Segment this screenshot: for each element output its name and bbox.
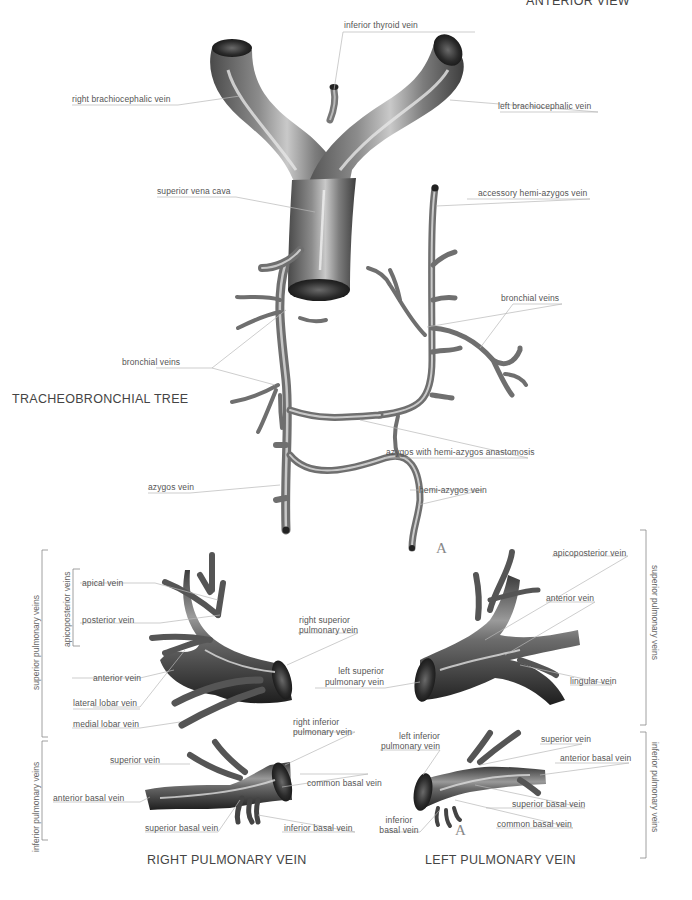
label-left-inferior-basal-vein-l1: inferior [378, 815, 420, 825]
label-apicoposterior-vein: apicoposterior vein [553, 548, 626, 558]
left-superior-pulmonary-vein-illustration [411, 552, 580, 705]
label-right-superior-pulmonary-vein-l2: pulmonary vein [299, 625, 358, 635]
label-left-superior-vein: superior vein [541, 734, 591, 744]
label-right-superior-pulmonary-vein-l1: right superior [299, 615, 350, 625]
section-title-tracheobronchial-tree: TRACHEOBRONCHIAL TREE [12, 392, 188, 406]
label-apical-vein: apical vein [82, 578, 123, 588]
bracket-label-right-superior-pulmonary-veins: superior pulmonary veins [31, 595, 41, 690]
bracket-label-left-superior-pulmonary-veins: superior pulmonary veins [650, 565, 660, 660]
label-right-inferior-pulmonary-vein-l1: right inferior [293, 717, 339, 727]
section-title-left-pulmonary-vein: LEFT PULMONARY VEIN [425, 853, 576, 867]
label-posterior-vein: posterior vein [82, 615, 134, 625]
marker-a-upper: A [436, 540, 447, 557]
bracket-label-right-inferior-pulmonary-veins: inferior pulmonary veins [31, 762, 41, 852]
label-azygos-anastomosis: azygos with hemi-azygos anastomosis [386, 447, 535, 457]
label-right-superior-vein: superior vein [110, 755, 160, 765]
right-superior-pulmonary-vein-illustration [152, 555, 296, 725]
right-inferior-pulmonary-vein-illustration [145, 742, 296, 822]
section-title-right-pulmonary-vein: RIGHT PULMONARY VEIN [147, 853, 307, 867]
label-lingular-vein: lingular vein [570, 676, 617, 686]
label-accessory-hemi-azygos-vein: accessory hemi-azygos vein [478, 188, 587, 198]
label-medial-lobar-vein: medial lobar vein [73, 719, 139, 729]
vein-anatomy-diagram: ANTERIOR VIEW inferior thyroid vein righ… [0, 0, 692, 900]
bracket-label-left-inferior-pulmonary-veins: inferior pulmonary veins [650, 742, 660, 832]
label-right-inferior-basal-vein: inferior basal vein [284, 823, 353, 833]
label-right-inferior-pulmonary-vein-l2: pulmonary vein [293, 727, 352, 737]
label-superior-vena-cava: superior vena cava [157, 186, 231, 196]
label-right-common-basal-vein: common basal vein [307, 778, 382, 788]
label-left-superior-pulmonary-vein-l1: left superior [316, 666, 384, 676]
label-left-common-basal-vein: common basal vein [497, 819, 572, 829]
azygos-system [232, 185, 526, 552]
label-bronchial-veins-right: bronchial veins [122, 357, 180, 367]
bracket-label-apicoposterior-veins: apicoposterior veins [62, 571, 72, 647]
label-right-brachiocephalic-vein: right brachiocephalic vein [72, 94, 171, 104]
label-hemi-azygos-vein: hemi-azygos vein [419, 485, 487, 495]
label-right-anterior-vein: anterior vein [93, 673, 141, 683]
label-right-superior-basal-vein: superior basal vein [145, 823, 218, 833]
label-left-anterior-basal-vein: anterior basal vein [560, 753, 631, 763]
label-azygos-vein: azygos vein [148, 482, 194, 492]
label-inferior-thyroid-vein: inferior thyroid vein [344, 20, 418, 30]
label-left-brachiocephalic-vein: left brachiocephalic vein [498, 101, 591, 111]
label-right-anterior-basal-vein: anterior basal vein [53, 793, 124, 803]
label-left-superior-basal-vein: superior basal vein [512, 799, 585, 809]
view-title: ANTERIOR VIEW [526, 0, 630, 8]
label-left-inferior-basal-vein-l2: basal vein [378, 825, 420, 835]
vein-illustration [0, 0, 692, 900]
label-bronchial-veins-left: bronchial veins [501, 293, 559, 303]
label-left-anterior-vein: anterior vein [546, 593, 594, 603]
label-left-inferior-pulmonary-vein-l1: left inferior [380, 731, 440, 741]
label-left-inferior-pulmonary-vein-l2: pulmonary vein [380, 741, 440, 751]
label-lateral-lobar-vein: lateral lobar vein [73, 698, 137, 708]
label-left-superior-pulmonary-vein-l2: pulmonary vein [316, 677, 384, 687]
marker-a-lower: A [455, 822, 466, 839]
